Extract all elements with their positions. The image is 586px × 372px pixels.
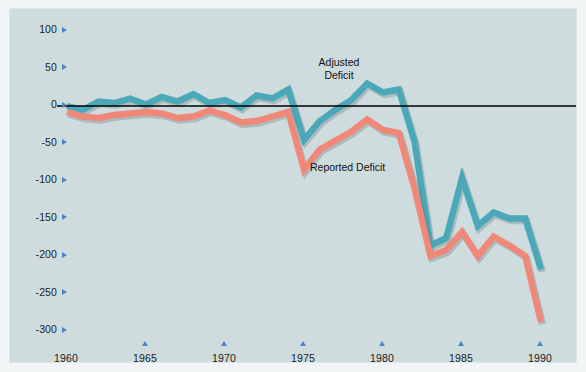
y-tick-marker-icon: [62, 102, 67, 108]
y-tick-label: -250: [17, 286, 57, 298]
reported-deficit-label: Reported Deficit: [310, 161, 420, 174]
y-tick-marker-icon: [62, 27, 67, 33]
chart-canvas: [10, 9, 578, 364]
y-tick-label: 0: [17, 98, 57, 110]
x-tick-marker-icon: [379, 341, 385, 346]
x-tick-label: 1980: [359, 352, 405, 364]
y-tick-label: -300: [17, 323, 57, 335]
x-tick-marker-icon: [458, 341, 464, 346]
y-tick-marker-icon: [62, 289, 67, 295]
x-tick-label: 1975: [280, 352, 326, 364]
y-tick-label: -150: [17, 211, 57, 223]
y-tick-label: 100: [17, 23, 57, 35]
y-tick-marker-icon: [62, 327, 67, 333]
y-tick-label: -100: [17, 173, 57, 185]
y-tick-label: -50: [17, 136, 57, 148]
y-tick-marker-icon: [62, 252, 67, 258]
x-tick-label: 1990: [517, 352, 563, 364]
y-tick-marker-icon: [62, 177, 67, 183]
x-tick-label: 1960: [43, 352, 89, 364]
x-tick-marker-icon: [537, 341, 543, 346]
y-tick-marker-icon: [62, 64, 67, 70]
chart-figure: Billions of Dollars 100500-50-100-150-20…: [0, 0, 586, 372]
series-layer: [67, 84, 543, 325]
x-tick-label: 1985: [438, 352, 484, 364]
x-tick-marker-icon: [142, 341, 148, 346]
adjusted-deficit-label: Adjusted Deficit: [296, 56, 382, 81]
x-tick-label: 1970: [201, 352, 247, 364]
y-tick-label: -200: [17, 248, 57, 260]
y-tick-label: 50: [17, 61, 57, 73]
y-tick-marker-icon: [62, 214, 67, 220]
x-tick-marker-icon: [221, 341, 227, 346]
x-tick-label: 1965: [122, 352, 168, 364]
plot-area: [9, 8, 577, 363]
y-tick-marker-icon: [62, 139, 67, 145]
x-tick-marker-icon: [300, 341, 306, 346]
